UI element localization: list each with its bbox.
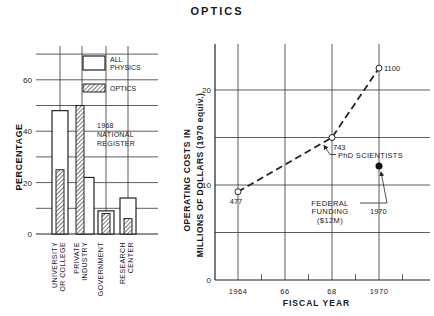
legend-label: PHYSICS — [110, 64, 141, 71]
annotation: 1970 — [370, 207, 387, 216]
line-chart — [215, 44, 430, 280]
category-label: RESEARCH — [119, 242, 126, 284]
category-label: UNIVERSITY — [51, 242, 58, 288]
chart-canvas: 0204060PERCENTAGEUNIVERSITYOR COLLEGEPRI… — [0, 0, 434, 316]
annotation: REGISTER — [97, 140, 135, 147]
x-tick-label: 66 — [280, 287, 289, 296]
legend-swatch-all-physics — [83, 56, 105, 70]
y-axis-label: MILLIONS OF DOLLARS (1970 equiv.) — [195, 93, 205, 258]
category-label: PRIVATE — [73, 242, 80, 274]
point-label: 477 — [230, 197, 243, 206]
y-tick-label: 40 — [23, 127, 32, 136]
bar-optics — [102, 213, 110, 234]
bar-optics — [56, 170, 64, 234]
bar-optics — [76, 106, 84, 235]
y-tick-label: 0 — [207, 276, 212, 285]
y-axis-label: OPERATING COSTS IN — [182, 128, 192, 231]
category-label: OR COLLEGE — [59, 242, 66, 292]
data-point — [329, 135, 335, 141]
y-axis-label: PERCENTAGE — [14, 124, 24, 191]
series-label: PhD SCIENTISTS — [338, 151, 403, 160]
x-tick-label: 1970 — [370, 287, 389, 296]
data-point — [235, 189, 241, 195]
annotation: FUNDING — [312, 207, 349, 216]
annotation: 1968 — [97, 122, 114, 129]
x-tick-label: 1964 — [229, 287, 248, 296]
category-label: CENTER — [127, 242, 134, 273]
data-point — [376, 65, 382, 71]
legend-label: ALL — [110, 56, 123, 63]
category-label: INDUSTRY — [81, 242, 88, 281]
point-label: 1100 — [384, 64, 400, 73]
category-label: GOVERNMENT — [97, 242, 104, 296]
x-tick-label: 68 — [327, 287, 336, 296]
y-tick-label: 60 — [23, 76, 32, 85]
legend-swatch-optics — [83, 84, 105, 92]
x-axis-label: FISCAL YEAR — [283, 298, 350, 308]
annotation: NATIONAL — [97, 131, 134, 138]
phd-scientists-line — [238, 68, 379, 191]
legend-label: OPTICS — [110, 85, 136, 92]
annotation: ($12M) — [317, 216, 343, 225]
bar-optics — [124, 219, 132, 234]
y-tick-label: 20 — [23, 179, 32, 188]
y-tick-label: 0 — [28, 230, 33, 239]
federal-funding-point — [376, 163, 383, 170]
